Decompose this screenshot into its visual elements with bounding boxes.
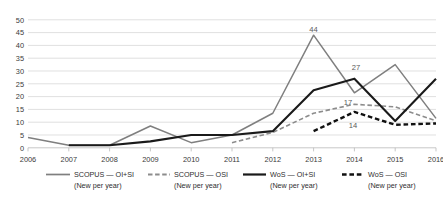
xtick-label-2013: 2013 [305, 155, 321, 164]
y-gridlines [28, 20, 436, 135]
xtick-label-2007: 2007 [61, 155, 77, 164]
legend-sublabel-scopus-osi: (New per year) [174, 181, 222, 190]
data-label-27: 27 [352, 63, 360, 72]
x-axis-tick-labels: 2006 2007 2008 2009 2010 2011 2012 2013 … [20, 155, 443, 164]
ytick-label-45: 45 [16, 28, 24, 37]
series-paths [28, 35, 436, 145]
y-axis-tick-labels: 50 45 40 35 30 25 20 15 10 5 0 [16, 16, 24, 153]
ytick-label-10: 10 [16, 118, 24, 127]
line-chart: 50 45 40 35 30 25 20 15 10 5 0 2006 2007… [0, 0, 443, 204]
chart-canvas: 50 45 40 35 30 25 20 15 10 5 0 2006 2007… [0, 0, 443, 204]
legend-sublabel-wos-osi: (New per year) [368, 181, 416, 190]
data-label-17: 17 [344, 98, 352, 107]
ytick-label-20: 20 [16, 92, 24, 101]
ytick-label-40: 40 [16, 41, 24, 50]
legend-sublabel-scopus-oi-si: (New per year) [74, 181, 122, 190]
xtick-label-2014: 2014 [346, 155, 362, 164]
x-axis-tick-marks [28, 148, 436, 152]
ytick-label-0: 0 [20, 144, 24, 153]
ytick-label-15: 15 [16, 105, 24, 114]
series-line-scopus-oi-si [28, 35, 436, 145]
data-label-44: 44 [309, 25, 317, 34]
xtick-label-2010: 2010 [183, 155, 199, 164]
legend-item-scopus-osi[interactable]: SCOPUS — OSI (New per year) [148, 170, 228, 190]
chart-legend: SCOPUS — OI+SI (New per year) SCOPUS — O… [46, 170, 416, 190]
ytick-label-25: 25 [16, 80, 24, 89]
legend-label-scopus-oi-si: SCOPUS — OI+SI [74, 170, 134, 179]
legend-label-scopus-osi: SCOPUS — OSI [174, 170, 228, 179]
data-label-14: 14 [349, 121, 357, 130]
xtick-label-2015: 2015 [387, 155, 403, 164]
legend-label-wos-oi-si: WoS — OI+SI [270, 170, 315, 179]
legend-item-wos-oi-si[interactable]: WoS — OI+SI (New per year) [243, 170, 318, 190]
xtick-label-2016: 2016 [428, 155, 443, 164]
xtick-label-2008: 2008 [101, 155, 117, 164]
xtick-label-2006: 2006 [20, 155, 36, 164]
xtick-label-2011: 2011 [224, 155, 240, 164]
ytick-label-5: 5 [20, 131, 24, 140]
ytick-label-50: 50 [16, 16, 24, 25]
legend-label-wos-osi: WoS — OSI [368, 170, 407, 179]
xtick-label-2009: 2009 [142, 155, 158, 164]
ytick-label-30: 30 [16, 67, 24, 76]
legend-item-scopus-oi-si[interactable]: SCOPUS — OI+SI (New per year) [46, 170, 134, 190]
legend-sublabel-wos-oi-si: (New per year) [270, 181, 318, 190]
legend-item-wos-osi[interactable]: WoS — OSI (New per year) [342, 170, 416, 190]
ytick-label-35: 35 [16, 54, 24, 63]
xtick-label-2012: 2012 [265, 155, 281, 164]
